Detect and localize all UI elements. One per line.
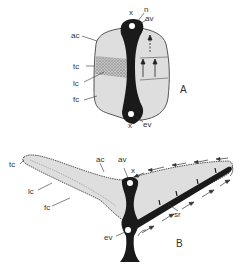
label-lc: lc (73, 79, 79, 88)
figure-b: tc lc fc ac av x sr ev B (9, 155, 233, 262)
label-lc: lc (28, 187, 34, 196)
label-ev: ev (143, 120, 151, 129)
label-ac: ac (71, 31, 79, 40)
label-fc: fc (73, 95, 79, 104)
figure-a: x n av ac tc lc fc x ev A (71, 5, 187, 130)
excretory-vacuole-hole (125, 227, 131, 233)
anterior-vacuole-hole (129, 23, 135, 29)
diagram-canvas: x n av ac tc lc fc x ev A (0, 0, 244, 270)
label-fc: fc (44, 203, 50, 212)
label-ev: ev (104, 233, 112, 242)
label-x-bottom: x (128, 121, 132, 130)
anterior-vacuole-hole (127, 180, 133, 186)
label-tc: tc (73, 62, 79, 71)
panel-label-b: B (176, 238, 183, 249)
label-x: x (131, 166, 135, 175)
excretory-vacuole-hole (128, 111, 134, 117)
label-n: n (144, 5, 148, 14)
label-x-top: x (129, 8, 133, 17)
label-tc: tc (9, 160, 15, 169)
label-av: av (118, 155, 126, 164)
label-sr: sr (174, 210, 181, 219)
label-ac: ac (96, 155, 104, 164)
label-av: av (145, 14, 153, 23)
panel-label-a: A (180, 84, 187, 95)
